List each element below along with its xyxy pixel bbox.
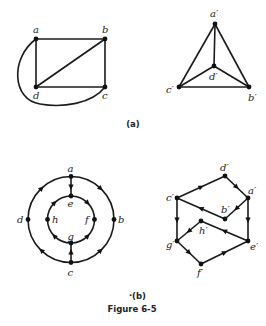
- arrow-e-h: [221, 227, 228, 234]
- node-d: [26, 217, 31, 222]
- label-c-prime: c′: [166, 84, 175, 95]
- arrow-a-e: [68, 185, 73, 190]
- graph-b-right: a′ b′ c′ d′ e′ f′ g′ h′: [166, 162, 259, 278]
- graph-b-left: a b c d e f g h: [17, 163, 124, 278]
- edge-d-b: [36, 39, 105, 87]
- label-c: c: [68, 267, 74, 278]
- node-h: [45, 217, 50, 222]
- node-c: [103, 85, 108, 90]
- node-h-prime: [199, 219, 204, 224]
- node-d-prime: [223, 174, 228, 179]
- graph-a-left: a b c d: [18, 24, 109, 105]
- label-a: a: [68, 163, 74, 174]
- node-a: [69, 174, 74, 179]
- node-f: [92, 217, 97, 222]
- node-a-prime: [213, 22, 218, 27]
- arrow-c-g: [68, 249, 73, 254]
- node-a: [34, 37, 39, 42]
- label-c-prime: c′: [166, 192, 175, 203]
- part-b-label: (b): [132, 291, 146, 301]
- node-c: [69, 260, 74, 265]
- label-g: g: [68, 231, 74, 242]
- node-g-prime: [175, 239, 180, 244]
- node-b: [112, 217, 117, 222]
- graph-a-right: a′ b′ c′ d′: [166, 8, 257, 103]
- label-a: a: [33, 24, 39, 35]
- node-b-prime: [223, 217, 228, 222]
- arrow-a-e: [245, 218, 250, 223]
- label-c: c: [102, 90, 108, 101]
- label-h-prime: h′: [199, 225, 208, 236]
- label-e-prime: e′: [250, 241, 259, 252]
- node-f-prime: [199, 262, 204, 267]
- label-b: b: [102, 24, 108, 35]
- node-d-prime: [212, 64, 217, 69]
- figure-caption: Figure 6-5: [107, 304, 156, 314]
- label-d: d: [33, 90, 39, 101]
- label-a-prime: a′: [248, 185, 257, 196]
- node-c-prime: [175, 196, 180, 201]
- label-f-prime: f′: [196, 267, 204, 278]
- arrow-f-e: [221, 249, 228, 256]
- label-d-prime: d′: [220, 162, 229, 173]
- arrow-c-d: [198, 183, 205, 190]
- label-a-prime: a′: [210, 8, 219, 19]
- label-h: h: [52, 214, 58, 225]
- label-b-prime: b′: [221, 204, 230, 215]
- node-b: [103, 37, 108, 42]
- label-d-prime: d′: [209, 71, 218, 82]
- label-d: d: [17, 214, 23, 225]
- figure-6-5: a b c d a′ b′ c′ d′ (a): [0, 0, 266, 326]
- node-b-prime: [247, 85, 252, 90]
- node-a-prime: [246, 196, 251, 201]
- arrow-c-g: [174, 218, 179, 223]
- label-g-prime: g′: [166, 239, 175, 250]
- node-c-prime: [177, 85, 182, 90]
- label-f: f: [84, 214, 91, 225]
- part-a-label: (a): [126, 119, 140, 129]
- label-b: b: [118, 214, 124, 225]
- label-e: e: [68, 198, 74, 209]
- edge-a-d: [214, 24, 215, 66]
- arrow-b-c: [197, 205, 204, 212]
- node-d: [34, 85, 39, 90]
- label-b-prime: b′: [248, 92, 257, 103]
